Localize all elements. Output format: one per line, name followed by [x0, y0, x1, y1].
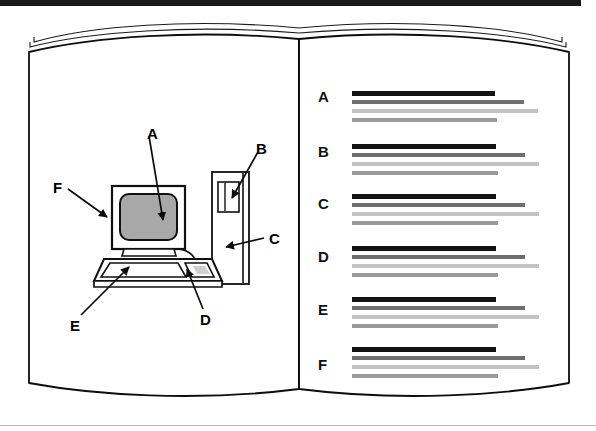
callout-label-b: B — [256, 141, 267, 156]
legend-text-line — [352, 109, 538, 113]
legend-entry-key-d: D — [318, 249, 329, 264]
legend-text-line — [352, 171, 498, 175]
display-screen[interactable] — [120, 194, 177, 240]
legend-entry-key-c: C — [318, 196, 329, 211]
legend-text-line — [352, 273, 498, 277]
legend-text-line — [352, 365, 539, 369]
legend-text-line — [352, 153, 525, 157]
legend-text-line — [352, 212, 539, 216]
legend-text-line — [352, 356, 525, 360]
legend-text-line — [352, 144, 496, 149]
legend-text-line — [352, 324, 498, 328]
callout-label-d: D — [200, 312, 211, 327]
legend-entry-key-f: F — [318, 357, 327, 372]
callout-label-e: E — [70, 318, 80, 333]
legend-text-line — [352, 347, 496, 352]
legend-text-line — [352, 246, 496, 251]
keyboard-key-area[interactable] — [101, 263, 186, 277]
disk-drive-slot-outer[interactable] — [218, 182, 239, 212]
callout-label-a: A — [147, 126, 158, 141]
bottom-hairline-rule — [0, 425, 596, 426]
legend-text-line — [352, 315, 539, 319]
legend-text-line — [352, 162, 539, 166]
legend-text-line — [352, 221, 498, 225]
legend-text-line — [352, 194, 496, 199]
monitor-base — [122, 249, 176, 256]
legend-entry-key-b: B — [318, 144, 329, 159]
legend-text-line — [352, 374, 498, 378]
callout-label-c: C — [269, 231, 280, 246]
callout-label-f: F — [53, 180, 62, 195]
legend-entry-key-e: E — [318, 302, 328, 317]
legend-text-line — [352, 306, 525, 310]
legend-text-line — [352, 203, 525, 207]
figure-canvas: A B C D E F ABCDEF — [0, 0, 596, 431]
legend-text-line — [352, 100, 524, 104]
legend-entry-key-a: A — [318, 89, 329, 104]
legend-text-line — [352, 297, 496, 302]
legend-text-line — [352, 264, 539, 268]
legend-text-line — [352, 118, 497, 122]
legend-text-line — [352, 91, 495, 96]
legend-text-line — [352, 255, 525, 259]
